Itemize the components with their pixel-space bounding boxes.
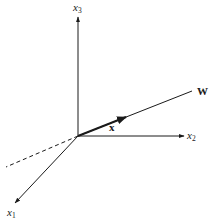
axis-x1-line <box>15 136 78 203</box>
axis-x2: x2 <box>78 129 196 143</box>
axis-x3: x3 <box>72 1 82 136</box>
vector-x-label: x <box>109 121 115 133</box>
axis-x1-label: x1 <box>6 206 16 220</box>
axis-x2-label: x2 <box>186 129 196 143</box>
vector-axes-diagram: x3 x2 x1 W x <box>0 0 212 224</box>
vector-W-label: W <box>197 85 208 97</box>
axis-x3-label: x3 <box>72 1 82 15</box>
axis-x1: x1 <box>6 136 78 220</box>
vector-x: x <box>78 117 126 136</box>
dashed-extension-line <box>6 136 78 167</box>
vector-x-line <box>78 117 126 136</box>
